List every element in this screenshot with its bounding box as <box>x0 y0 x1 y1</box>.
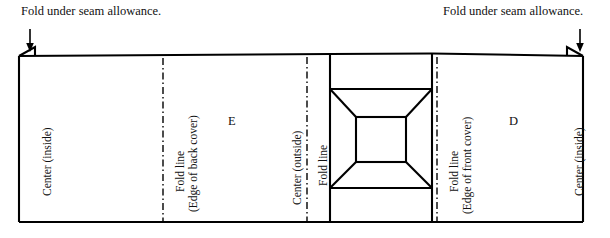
fold-arrow-right <box>576 29 584 52</box>
label-fold-line-center: Fold line <box>317 145 329 186</box>
label-fold-line-front: Fold line <box>448 151 460 192</box>
book-cover-pattern-diagram: Fold under seam allowance. Fold under se… <box>0 0 610 238</box>
label-center-inside-left: Center (inside) <box>41 127 53 196</box>
seam-allowance-flap-left <box>19 47 35 56</box>
panel-letter-e: E <box>228 114 236 129</box>
spine-inner-panel <box>330 89 432 188</box>
label-fold-line-back: Fold line <box>174 151 186 192</box>
label-center-inside-right: Center (inside) <box>573 127 585 196</box>
label-edge-of-back-cover: (Edge of back cover) <box>187 115 199 212</box>
label-edge-of-front-cover: (Edge of front cover) <box>461 117 473 214</box>
spine-box <box>330 54 432 223</box>
pattern-linework <box>0 0 610 238</box>
label-center-outside: Center (outside) <box>291 131 303 205</box>
panel-letter-d: D <box>509 114 518 129</box>
